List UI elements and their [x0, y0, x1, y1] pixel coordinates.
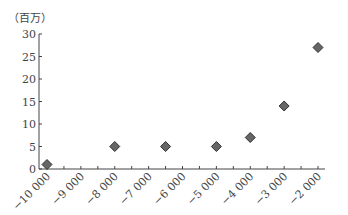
- x-tick-label: −9 000: [49, 170, 87, 208]
- x-tick-label: −8 000: [83, 170, 121, 208]
- x-tick-label: −5 000: [185, 170, 223, 208]
- y-tick-label: 10: [22, 118, 36, 131]
- data-point-diamond: [245, 133, 255, 143]
- y-tick-label: 0: [29, 163, 36, 176]
- y-tick-label: 15: [22, 96, 36, 109]
- data-point-diamond: [211, 142, 221, 152]
- x-axis-ticks: −10 000−9 000−8 000−7 000−6 000−5 000−4 …: [10, 166, 324, 213]
- data-point-diamond: [110, 142, 120, 152]
- y-tick-label: 30: [22, 28, 36, 41]
- data-point-diamond: [161, 142, 171, 152]
- y-tick-label: 20: [22, 73, 36, 86]
- x-tick-label: −7 000: [117, 170, 155, 208]
- x-tick-label: −10 000: [10, 170, 53, 213]
- axes: [39, 34, 325, 169]
- data-point-diamond: [313, 43, 323, 53]
- data-point-diamond: [279, 101, 289, 111]
- scatter-chart: （百万） 051015202530 −10 000−9 000−8 000−7 …: [0, 0, 348, 215]
- y-unit-label: （百万）: [8, 12, 52, 25]
- x-tick-label: −2 000: [286, 170, 324, 208]
- x-tick-label: −4 000: [218, 170, 256, 208]
- data-point-diamond: [42, 160, 52, 170]
- x-tick-label: −3 000: [252, 170, 290, 208]
- x-tick-label: −6 000: [151, 170, 189, 208]
- y-tick-label: 5: [29, 141, 36, 154]
- data-points: [42, 43, 323, 170]
- y-tick-label: 25: [22, 51, 36, 64]
